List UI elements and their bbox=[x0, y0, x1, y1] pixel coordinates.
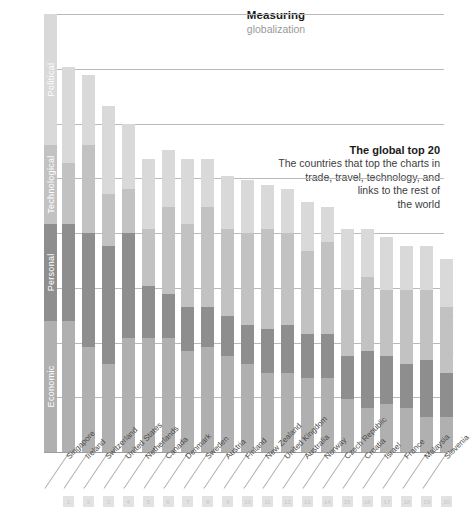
rank-badge-8: 8 bbox=[202, 496, 213, 507]
bar-segment-political bbox=[102, 106, 115, 194]
bar-segment-personal bbox=[62, 224, 75, 320]
bar-segment-personal bbox=[400, 364, 413, 408]
bar-segment-political bbox=[142, 159, 155, 229]
bar-segment-technological bbox=[361, 277, 374, 351]
rank-badge-4: 4 bbox=[123, 496, 134, 507]
bar-sweden[interactable] bbox=[201, 159, 214, 452]
legend-segment-personal: Personal bbox=[44, 224, 57, 320]
bar-czech-republic[interactable] bbox=[341, 229, 354, 452]
legend-segment-political: Political bbox=[44, 14, 57, 145]
chart-legend-axis: EconomicPersonalTechnologicalPolitical bbox=[44, 14, 57, 452]
bar-united-kingdom[interactable] bbox=[281, 189, 294, 452]
bar-segment-technological bbox=[261, 229, 274, 330]
rank-badge-5: 5 bbox=[143, 496, 154, 507]
rank-badge-19: 19 bbox=[421, 496, 432, 507]
bar-segment-political bbox=[440, 259, 453, 307]
bar-malaysia[interactable] bbox=[420, 246, 433, 452]
bar-singapore[interactable] bbox=[62, 67, 75, 452]
rank-badge-18: 18 bbox=[401, 496, 412, 507]
bar-segment-technological bbox=[400, 290, 413, 364]
bar-switzerland[interactable] bbox=[102, 106, 115, 452]
bar-segment-personal bbox=[82, 233, 95, 347]
bar-segment-political bbox=[241, 180, 254, 233]
bar-segment-technological bbox=[181, 224, 194, 307]
bar-segment-political bbox=[380, 237, 393, 290]
bar-austria[interactable] bbox=[221, 176, 234, 452]
bar-segment-personal bbox=[281, 325, 294, 373]
bar-segment-personal bbox=[181, 307, 194, 351]
bar-segment-technological bbox=[221, 229, 234, 317]
bar-segment-economic bbox=[102, 364, 115, 452]
rank-badge-2: 2 bbox=[83, 496, 94, 507]
bar-segment-technological bbox=[420, 290, 433, 360]
bar-segment-economic bbox=[62, 321, 75, 452]
rank-badge-12: 12 bbox=[282, 496, 293, 507]
bar-segment-personal bbox=[162, 294, 175, 338]
rank-badge-1: 1 bbox=[63, 496, 74, 507]
legend-label-personal: Personal bbox=[44, 224, 57, 320]
bar-segment-technological bbox=[440, 307, 453, 373]
rank-badge-15: 15 bbox=[342, 496, 353, 507]
bar-australia[interactable] bbox=[301, 202, 314, 452]
bar-segment-personal bbox=[301, 334, 314, 378]
rank-badge-16: 16 bbox=[362, 496, 373, 507]
gridline bbox=[44, 14, 444, 15]
bar-segment-political bbox=[82, 75, 95, 145]
bar-netherlands[interactable] bbox=[142, 159, 155, 452]
legend-label-economic: Economic bbox=[44, 321, 57, 452]
chart-category-axis: Singapore1Ireland2Switzerland3United Sta… bbox=[0, 452, 473, 529]
bar-finland[interactable] bbox=[241, 180, 254, 452]
rank-badge-14: 14 bbox=[322, 496, 333, 507]
bar-segment-political bbox=[221, 176, 234, 229]
bar-segment-technological bbox=[281, 233, 294, 325]
bar-segment-personal bbox=[102, 246, 115, 364]
bar-segment-political bbox=[261, 185, 274, 229]
bar-croatia[interactable] bbox=[361, 229, 374, 452]
bar-ireland[interactable] bbox=[82, 75, 95, 452]
rank-badge-11: 11 bbox=[262, 496, 273, 507]
bar-segment-political bbox=[62, 67, 75, 163]
bar-segment-personal bbox=[321, 334, 334, 378]
bar-segment-political bbox=[201, 159, 214, 207]
bar-segment-technological bbox=[62, 163, 75, 224]
bar-segment-technological bbox=[82, 145, 95, 233]
legend-label-technological: Technological bbox=[44, 145, 57, 224]
bar-segment-personal bbox=[361, 351, 374, 408]
bar-segment-technological bbox=[341, 290, 354, 356]
bar-slovenia[interactable] bbox=[440, 259, 453, 452]
bar-new-zealand[interactable] bbox=[261, 185, 274, 452]
rank-badge-9: 9 bbox=[222, 496, 233, 507]
bar-segment-technological bbox=[102, 194, 115, 247]
bar-segment-political bbox=[341, 229, 354, 290]
bar-segment-political bbox=[301, 202, 314, 250]
bar-segment-personal bbox=[241, 325, 254, 364]
rank-badge-3: 3 bbox=[103, 496, 114, 507]
bar-denmark[interactable] bbox=[181, 159, 194, 452]
bar-france[interactable] bbox=[400, 246, 413, 452]
bar-united-states[interactable] bbox=[122, 124, 135, 453]
bar-segment-personal bbox=[341, 356, 354, 400]
bar-segment-political bbox=[281, 189, 294, 233]
bar-segment-technological bbox=[162, 207, 175, 295]
bar-segment-political bbox=[162, 150, 175, 207]
bar-segment-personal bbox=[122, 233, 135, 338]
bar-canada[interactable] bbox=[162, 150, 175, 452]
bar-segment-technological bbox=[321, 242, 334, 334]
bar-segment-technological bbox=[122, 189, 135, 233]
bar-segment-political bbox=[400, 246, 413, 290]
rank-badge-6: 6 bbox=[163, 496, 174, 507]
rank-badge-13: 13 bbox=[302, 496, 313, 507]
rank-badge-10: 10 bbox=[242, 496, 253, 507]
bar-segment-personal bbox=[142, 286, 155, 339]
bar-segment-political bbox=[420, 246, 433, 290]
bar-segment-personal bbox=[420, 360, 433, 417]
legend-label-political: Political bbox=[44, 14, 57, 145]
bar-segment-personal bbox=[221, 316, 234, 355]
rank-badge-17: 17 bbox=[381, 496, 392, 507]
rank-badge-7: 7 bbox=[182, 496, 193, 507]
gridline bbox=[44, 69, 444, 70]
bar-segment-personal bbox=[201, 307, 214, 346]
bar-segment-technological bbox=[241, 233, 254, 325]
bar-segment-personal bbox=[380, 356, 393, 404]
bar-segment-technological bbox=[201, 207, 214, 308]
